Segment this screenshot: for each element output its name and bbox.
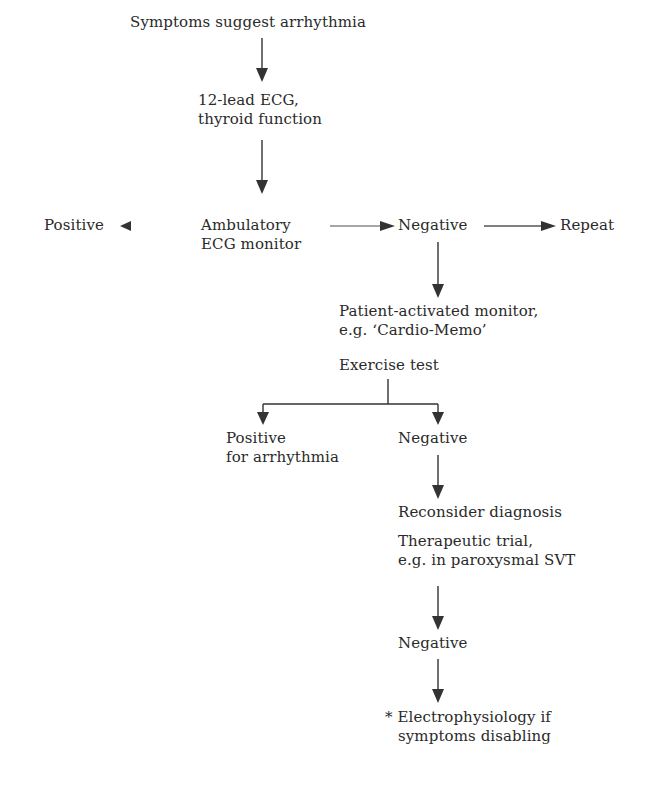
arrow-start-to-ecg12 bbox=[256, 38, 268, 82]
node-12-lead-ecg: 12-lead ECG, thyroid function bbox=[198, 91, 322, 129]
node-exercise-test: Exercise test bbox=[339, 356, 439, 375]
node-symptoms: Symptoms suggest arrhythmia bbox=[130, 13, 366, 32]
flowchart-connectors bbox=[0, 0, 657, 785]
arrow-ecg12-to-ambulatory bbox=[256, 140, 268, 194]
arrow-negative-to-repeat bbox=[484, 221, 556, 231]
node-patient-activated-monitor: Patient-activated monitor, e.g. ‘Cardio-… bbox=[339, 302, 538, 340]
branch-exercise-test bbox=[257, 379, 444, 425]
arrow-negative-to-reconsider bbox=[432, 455, 444, 499]
node-electrophysiology: * Electrophysiology if symptoms disablin… bbox=[385, 708, 551, 746]
node-ambulatory-ecg: Ambulatory ECG monitor bbox=[201, 216, 301, 254]
node-therapeutic-trial: Therapeutic trial, e.g. in paroxysmal SV… bbox=[398, 532, 575, 570]
arrow-trial-to-negative bbox=[432, 586, 444, 630]
node-negative-ambulatory: Negative bbox=[398, 216, 468, 235]
arrow-ambulatory-to-positive bbox=[120, 221, 131, 231]
arrow-negative-to-electrophysiology bbox=[432, 659, 444, 703]
node-reconsider-diagnosis: Reconsider diagnosis bbox=[398, 503, 562, 522]
arrow-negative-to-patient-monitor bbox=[432, 242, 444, 298]
node-negative-trial: Negative bbox=[398, 634, 468, 653]
node-positive-for-arrhythmia: Positive for arrhythmia bbox=[226, 429, 339, 467]
node-repeat: Repeat bbox=[560, 216, 614, 235]
node-negative-exercise: Negative bbox=[398, 429, 468, 448]
arrow-ambulatory-to-negative bbox=[330, 221, 395, 231]
node-positive-left: Positive bbox=[44, 216, 104, 235]
